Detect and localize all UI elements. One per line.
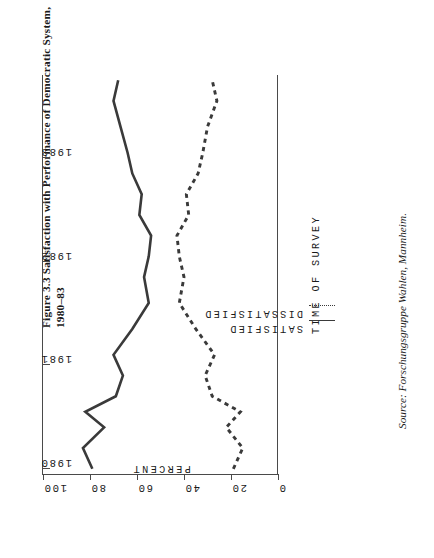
legend-label: SATISFIED [228, 323, 303, 334]
legend-label: DISSATISFIED [203, 308, 303, 319]
series-line-satisfied [83, 80, 151, 469]
chart-figure: 100 80 60 40 20 0 1980 1981 1982 1983 PE… [32, 53, 332, 523]
percent-tick [184, 474, 185, 480]
percent-tick [43, 474, 44, 480]
legend-item-dissatisfied: DISSATISFIED [239, 296, 335, 311]
percent-tick-label: 20 [231, 482, 247, 494]
percent-tick-label: 0 [278, 482, 286, 494]
source-label: Source: [396, 394, 408, 429]
legend-swatch-dotted-line-icon [309, 305, 335, 306]
percent-tick-label: 80 [90, 482, 106, 494]
plot-area: 100 80 60 40 20 0 1980 1981 1982 1983 PE… [42, 75, 278, 475]
percent-tick-label: 40 [184, 482, 200, 494]
percent-tick [137, 474, 138, 480]
percent-tick [278, 474, 279, 480]
source-value: Forschungsgruppe Wahlen, Mannheim. [396, 213, 408, 394]
percent-tick [90, 474, 91, 480]
chart-legend: SATISFIED DISSATISFIED [239, 206, 335, 326]
legend-swatch-solid-line-icon [309, 320, 335, 321]
percent-tick [231, 474, 232, 480]
percent-tick-label: 100 [43, 482, 67, 494]
series-line-dissatisfied [177, 80, 243, 469]
source-note: Source: Forschungsgruppe Wahlen, Mannhei… [396, 169, 408, 429]
percent-tick-label: 60 [137, 482, 153, 494]
